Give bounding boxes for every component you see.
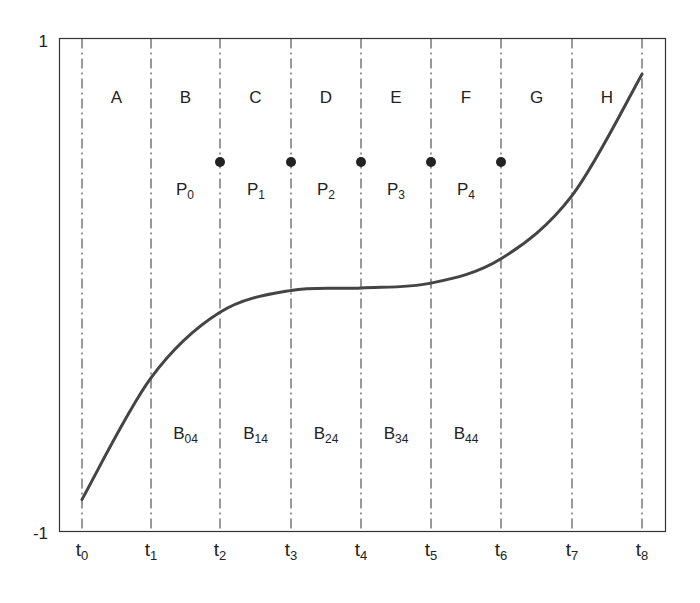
- y-axis-labels: 1-1: [33, 32, 48, 543]
- spline-chart: 1-1 t0t1t2t3t4t5t6t7t8 ABCDEFGH P0P1P2P3…: [0, 0, 700, 603]
- control-point-label-P3: P3: [387, 180, 405, 202]
- plot-frame: [60, 39, 666, 532]
- control-point-label-P4: P4: [457, 180, 475, 202]
- y-tick-min: -1: [33, 524, 48, 543]
- interval-label-G: G: [530, 88, 543, 107]
- basis-label-B04: B04: [173, 424, 198, 446]
- basis-label-B44: B44: [454, 424, 479, 446]
- control-point-P1: [286, 157, 296, 167]
- interval-label-C: C: [249, 88, 261, 107]
- x-tick-t2: t2: [214, 539, 227, 563]
- control-point-P3: [426, 157, 436, 167]
- basis-label-B14: B14: [243, 424, 268, 446]
- basis-function-labels: B04B14B24B34B44: [173, 424, 479, 446]
- control-point-P4: [496, 157, 506, 167]
- control-point-P2: [356, 157, 366, 167]
- x-tick-t8: t8: [636, 539, 649, 563]
- interval-label-B: B: [180, 88, 191, 107]
- x-tick-t5: t5: [425, 539, 438, 563]
- interval-label-D: D: [320, 88, 332, 107]
- control-point-labels: P0P1P2P3P4: [176, 180, 475, 202]
- interval-label-E: E: [390, 88, 401, 107]
- spline-curve: [82, 74, 642, 499]
- basis-label-B34: B34: [384, 424, 409, 446]
- basis-label-B24: B24: [314, 424, 339, 446]
- x-tick-t0: t0: [76, 539, 89, 563]
- control-point-label-P1: P1: [247, 180, 265, 202]
- control-point-label-P0: P0: [176, 180, 194, 202]
- interval-label-A: A: [111, 88, 123, 107]
- control-points: [215, 157, 506, 167]
- x-tick-t4: t4: [355, 539, 368, 563]
- knot-gridlines: [82, 39, 642, 532]
- x-tick-t3: t3: [285, 539, 298, 563]
- interval-label-F: F: [461, 88, 471, 107]
- control-point-P0: [215, 157, 225, 167]
- x-tick-t7: t7: [566, 539, 579, 563]
- x-axis-labels: t0t1t2t3t4t5t6t7t8: [76, 539, 649, 563]
- control-point-label-P2: P2: [317, 180, 335, 202]
- y-tick-max: 1: [39, 32, 48, 51]
- x-tick-t1: t1: [145, 539, 158, 563]
- interval-label-H: H: [601, 88, 613, 107]
- interval-labels: ABCDEFGH: [111, 88, 613, 107]
- x-tick-t6: t6: [495, 539, 508, 563]
